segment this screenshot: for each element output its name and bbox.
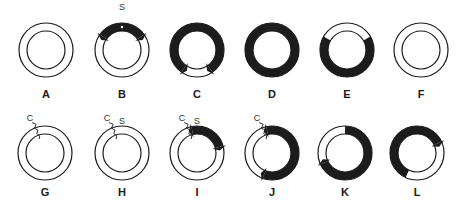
panel-label-f: F (418, 88, 425, 100)
ring-panel-k (318, 126, 372, 180)
inner-strand-circle (402, 31, 440, 69)
rings-canvas (0, 0, 465, 206)
annotation-s: S (194, 116, 200, 126)
panel-label-j: J (269, 186, 275, 198)
ring-panel-i (170, 123, 226, 180)
annotation-c: C (254, 113, 261, 123)
ring-panel-j (245, 123, 299, 182)
panel-label-g: G (41, 186, 50, 198)
panel-label-l: L (414, 186, 421, 198)
inner-strand-circle (253, 31, 291, 69)
panel-label-c: C (193, 88, 201, 100)
replicated-segment (320, 37, 374, 78)
ring-panel-c (170, 23, 224, 77)
annotation-s: S (119, 2, 125, 12)
ring-panel-e (320, 23, 374, 77)
inner-strand-circle (27, 31, 65, 69)
inner-strand-circle (253, 134, 291, 172)
ring-panel-d (245, 23, 299, 77)
inner-strand-circle (398, 134, 436, 172)
panel-label-k: K (341, 186, 349, 198)
filled-ring (249, 27, 295, 73)
ring-panel-a (19, 23, 73, 77)
replication-ring-diagram: ASBCDEFCGCSHCSICJKL (0, 0, 465, 206)
panel-label-h: H (118, 186, 126, 198)
ring-panel-f (394, 23, 448, 77)
inner-strand-circle (103, 31, 141, 69)
inner-strand-circle (326, 134, 364, 172)
inner-strand-circle (328, 31, 366, 69)
inner-strand-circle (26, 134, 64, 172)
panel-label-a: A (42, 88, 50, 100)
panel-label-e: E (343, 88, 350, 100)
ring-panel-l (390, 126, 444, 180)
annotation-c: C (104, 113, 111, 123)
ring-panel-b (95, 23, 149, 77)
ring-panel-g (18, 123, 72, 180)
origin-dot (121, 26, 123, 28)
inner-strand-circle (178, 31, 216, 69)
annotation-s: S (119, 116, 125, 126)
panel-label-d: D (268, 88, 276, 100)
panel-label-i: I (195, 186, 198, 198)
inner-strand-circle (178, 134, 216, 172)
panel-label-b: B (118, 88, 126, 100)
ring-panel-h (95, 123, 149, 180)
inner-strand-circle (103, 134, 141, 172)
annotation-c: C (27, 113, 34, 123)
annotation-c: C (179, 113, 186, 123)
